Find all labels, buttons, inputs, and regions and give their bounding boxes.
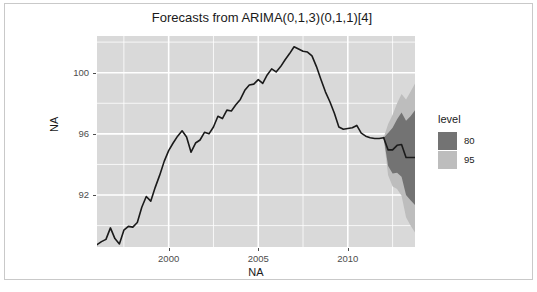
y-tick-mark bbox=[93, 73, 96, 74]
x-tick-label: 2010 bbox=[328, 253, 368, 264]
observed-series-line bbox=[97, 47, 384, 245]
x-tick-mark bbox=[258, 248, 259, 251]
x-tick-mark bbox=[348, 248, 349, 251]
plot-panel bbox=[97, 36, 415, 247]
y-tick-label: 100 bbox=[55, 67, 89, 78]
y-axis-label: NA bbox=[48, 117, 60, 132]
legend-item[interactable]: 95 bbox=[438, 150, 475, 169]
x-tick-mark bbox=[169, 248, 170, 251]
legend: level 8095 bbox=[438, 113, 475, 169]
chart-title: Forecasts from ARIMA(0,1,3)(0,1,1)[4] bbox=[97, 10, 427, 25]
y-tick-mark bbox=[93, 195, 96, 196]
gridlines-major bbox=[97, 36, 415, 247]
legend-title: level bbox=[438, 113, 475, 125]
y-tick-label: 92 bbox=[55, 189, 89, 200]
legend-item[interactable]: 80 bbox=[438, 131, 475, 150]
chart-root: Forecasts from ARIMA(0,1,3)(0,1,1)[4] 92… bbox=[0, 0, 537, 292]
x-tick-label: 2005 bbox=[238, 253, 278, 264]
x-tick-label: 2000 bbox=[149, 253, 189, 264]
legend-item-label: 95 bbox=[464, 154, 475, 165]
legend-key-swatch bbox=[438, 151, 457, 169]
legend-items: 8095 bbox=[438, 131, 475, 169]
gridlines-minor bbox=[97, 36, 415, 247]
y-tick-mark bbox=[93, 134, 96, 135]
x-axis-label: NA bbox=[97, 266, 415, 278]
plot-canvas bbox=[97, 36, 415, 247]
y-tick-label: 96 bbox=[55, 128, 89, 139]
legend-key-swatch bbox=[438, 132, 457, 150]
legend-item-label: 80 bbox=[464, 135, 475, 146]
